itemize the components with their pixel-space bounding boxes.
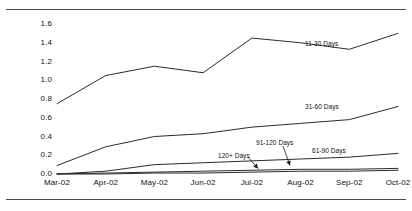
x-tick-label: Apr-02 [83,178,129,187]
series-annotation-label: 31-60 Days [305,103,339,110]
y-tick-label: 0.6 [26,114,52,122]
x-tick-label: Aug-02 [278,178,324,187]
y-tick-label: 1.6 [26,20,52,28]
series-annotation-label: 91-120 Days [256,139,293,146]
x-tick-label: Jun-02 [180,178,226,187]
chart-figure: 0.00.20.40.60.81.01.21.41.6 Mar-02Apr-02… [0,0,412,211]
y-tick-label: 1.0 [26,76,52,84]
y-tick-label: 0.4 [26,133,52,141]
series-line [57,33,398,103]
x-tick-label: May-02 [131,178,177,187]
y-tick-label: 1.4 [26,39,52,47]
x-tick-label: Jul-02 [229,178,275,187]
series-annotation-label: 11-30 Days [305,40,338,47]
series-annotation-label: 61-90 Days [312,147,346,154]
y-tick-label: 0.8 [26,95,52,103]
y-tick-label: 0.0 [26,170,52,178]
series-annotation-label: 120+ Days [218,152,250,159]
y-tick-label: 0.2 [26,151,52,159]
y-tick-label: 1.2 [26,58,52,66]
x-tick-label: Sep-02 [326,178,372,187]
x-tick-label: Oct-02 [375,178,412,187]
x-tick-label: Mar-02 [34,178,80,187]
annotation-arrow-group [248,146,291,169]
